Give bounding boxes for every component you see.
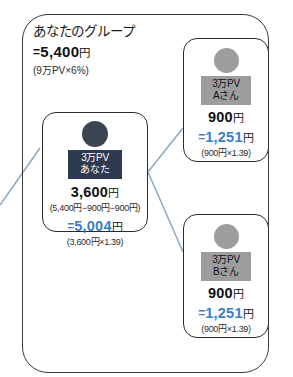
node-converted-a: =1,251円 xyxy=(184,129,268,145)
node-card-you: 3万PV あなた 3,600円 (5,400円−900円−900円) =5,00… xyxy=(42,112,148,232)
node-name-label: Aさん xyxy=(201,90,251,102)
node-converted-you: =5,004円 xyxy=(43,218,147,234)
node-breakdown-you: (5,400円−900円−900円) xyxy=(43,201,147,214)
group-title: あなたのグループ xyxy=(33,20,183,40)
node-amount-yen: 円 xyxy=(108,187,119,199)
node-amount-value: 900 xyxy=(208,285,233,301)
node-converted-yen: 円 xyxy=(112,221,123,233)
node-pv-label: 3万PV xyxy=(212,254,240,265)
node-pv-label: 3万PV xyxy=(81,152,109,163)
node-card-a: 3万PV Aさん 900円 =1,251円 (900円×1.39) xyxy=(183,38,269,162)
node-converted-note-b: (900円×1.39) xyxy=(184,322,268,335)
node-badge-a: 3万PV Aさん xyxy=(201,76,251,105)
node-amount-value: 3,600 xyxy=(71,184,108,200)
group-total-amount: =5,400円 xyxy=(33,43,183,60)
node-amount-yen: 円 xyxy=(233,112,244,124)
node-badge-b: 3万PV Bさん xyxy=(201,252,251,281)
node-amount-value: 900 xyxy=(208,109,233,125)
node-badge-you: 3万PV あなた xyxy=(68,150,122,179)
node-converted-b: =1,251円 xyxy=(184,305,268,321)
diagram-canvas: あなたのグループ =5,400円 (9万PV×6%) 3万PV あなた 3,60… xyxy=(0,0,293,377)
node-converted-value: 5,004 xyxy=(74,218,111,234)
node-amount-yen: 円 xyxy=(233,288,244,300)
group-summary: あなたのグループ =5,400円 (9万PV×6%) xyxy=(33,20,183,77)
person-head-icon xyxy=(214,48,239,73)
node-converted-yen: 円 xyxy=(243,308,254,320)
node-name-label: Bさん xyxy=(201,266,251,278)
node-converted-note-you: (3,600円×1.39) xyxy=(43,235,147,248)
node-amount-a: 900円 xyxy=(184,109,268,125)
node-converted-note-a: (900円×1.39) xyxy=(184,146,268,159)
node-card-b: 3万PV Bさん 900円 =1,251円 (900円×1.39) xyxy=(183,214,269,338)
node-amount-you: 3,600円 xyxy=(43,184,147,200)
person-head-icon xyxy=(82,121,108,147)
group-total-value: 5,400 xyxy=(40,43,79,60)
person-head-icon xyxy=(214,224,239,249)
node-converted-yen: 円 xyxy=(243,132,254,144)
node-pv-label: 3万PV xyxy=(212,78,240,89)
node-amount-b: 900円 xyxy=(184,285,268,301)
node-converted-value: 1,251 xyxy=(205,129,242,145)
group-total-yen: 円 xyxy=(79,47,90,59)
node-name-label: あなた xyxy=(68,164,122,176)
group-calculation-note: (9万PV×6%) xyxy=(33,62,183,77)
node-converted-value: 1,251 xyxy=(205,305,242,321)
